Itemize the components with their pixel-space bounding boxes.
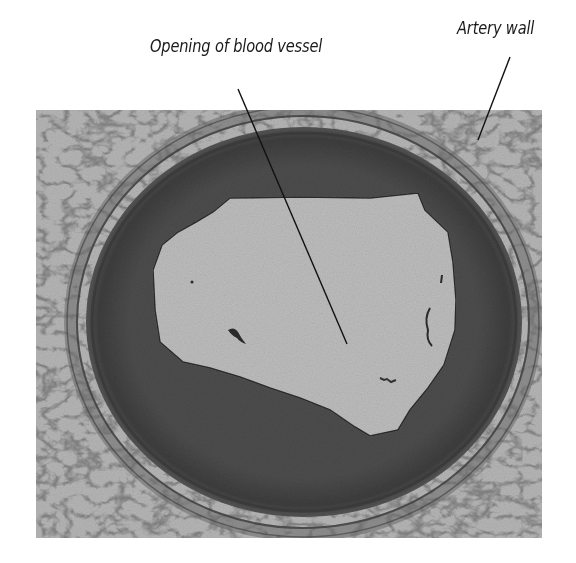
micrograph-photo <box>36 107 542 538</box>
debris <box>441 275 442 283</box>
artery-micrograph <box>0 0 576 563</box>
